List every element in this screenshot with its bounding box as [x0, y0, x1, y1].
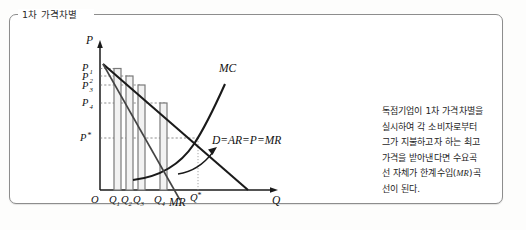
- quantity-tick-q1: Q 1: [109, 194, 120, 207]
- bar-q2: [126, 76, 133, 190]
- origin-label: O: [91, 194, 99, 205]
- svg-text:*: *: [198, 191, 202, 200]
- quantity-tick-q2: Q 2: [121, 194, 133, 207]
- caption-line-5-b: )곡: [469, 168, 481, 178]
- y-axis-label: P: [85, 34, 93, 46]
- svg-text:P: P: [81, 80, 89, 91]
- svg-text:P: P: [79, 132, 87, 143]
- svg-text:1: 1: [117, 200, 120, 207]
- svg-text:3: 3: [140, 200, 145, 207]
- demand-curve: [103, 64, 248, 190]
- svg-text:3: 3: [89, 86, 94, 93]
- svg-text:4: 4: [90, 103, 94, 110]
- caption-mr-italic: MR: [456, 168, 469, 178]
- mc-curve-label: MC: [218, 62, 237, 74]
- svg-text:2: 2: [90, 77, 94, 84]
- caption-line-5-a: 선 자체가 한계수입(: [382, 168, 456, 178]
- quantity-tick-q3: Q 3: [133, 194, 145, 207]
- chart-svg: P Q P 1 P 2 P 3 P 4 P *: [20, 22, 320, 202]
- marginal-cost-curve: [133, 84, 225, 180]
- y-axis: [97, 40, 103, 190]
- quantity-tick-q4: Q 4: [154, 194, 166, 207]
- demand-curve-label: D=AR=P=MR: [211, 134, 281, 146]
- annotation-arrow: [178, 147, 217, 174]
- figure-legend-title: 1차 가격차별: [22, 7, 77, 21]
- figure-caption: 독점기업이 1차 가격차별을 실시하여 각 소비자로부터 그가 지불하고자 하는…: [382, 104, 502, 198]
- svg-text:4: 4: [162, 200, 166, 207]
- caption-line-5: 선 자체가 한계수입(MR)곡: [382, 166, 502, 182]
- caption-line-3: 그가 지불하고자 하는 최고: [382, 135, 502, 151]
- price-discrimination-chart: P Q P 1 P 2 P 3 P 4 P *: [20, 22, 320, 202]
- caption-line-2: 실시하여 각 소비자로부터: [382, 120, 502, 136]
- price-tick-p-star: P *: [79, 131, 92, 143]
- mr-line-label: MR: [168, 196, 186, 208]
- svg-text:*: *: [88, 131, 92, 140]
- x-axis-label: Q: [272, 194, 281, 206]
- price-tick-p4: P 4: [81, 97, 94, 110]
- figure-root: 1차 가격차별: [0, 0, 526, 230]
- caption-line-1: 독점기업이 1차 가격차별을: [382, 104, 502, 120]
- quantity-tick-q-star: Q *: [190, 191, 202, 203]
- svg-text:1: 1: [90, 68, 93, 75]
- svg-text:2: 2: [129, 200, 133, 207]
- svg-text:P: P: [81, 97, 89, 108]
- caption-line-4: 가격을 받아낸다면 수요곡: [382, 151, 502, 167]
- caption-line-6: 선이 된다.: [382, 182, 502, 198]
